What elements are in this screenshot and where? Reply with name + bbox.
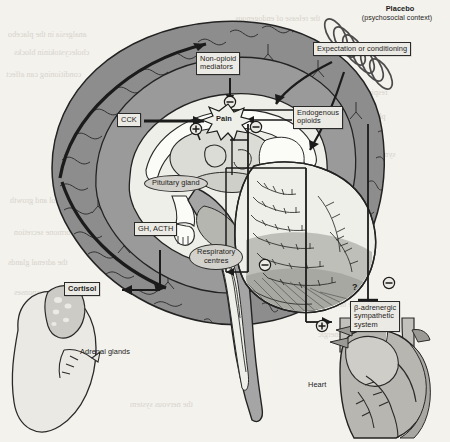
gh-acth-label[interactable]: GH, ACTH bbox=[134, 222, 177, 236]
figure-canvas: the release of endogenous analgesia in t… bbox=[0, 0, 450, 442]
question-mark-label: ? bbox=[352, 283, 358, 292]
pituitary-gland-label[interactable]: Pituitary gland bbox=[144, 175, 208, 192]
heart-label: Heart bbox=[308, 381, 326, 390]
placebo-subtitle: (psychosocial context) bbox=[344, 14, 450, 23]
endogenous-opioids-label[interactable]: Endogenous opioids bbox=[293, 106, 343, 129]
non-opioid-mediators-label[interactable]: Non-opioid mediators bbox=[196, 52, 240, 75]
respiratory-centres-label[interactable]: Respiratory centres bbox=[189, 244, 243, 270]
cck-label[interactable]: CCK bbox=[117, 113, 141, 127]
adrenal-glands-label: Adrenal glands bbox=[80, 348, 130, 357]
cortisol-label[interactable]: Cortisol bbox=[64, 282, 100, 296]
pain-label: Pain bbox=[216, 115, 232, 124]
placebo-title: Placebo bbox=[352, 5, 448, 14]
beta-adrenergic-sympathetic-system-label[interactable]: β-adrenergic sympathetic system bbox=[350, 301, 400, 332]
adrenal-gland-and-kidney bbox=[12, 286, 100, 432]
expectation-or-conditioning-label[interactable]: Expectation or conditioning bbox=[313, 42, 411, 56]
